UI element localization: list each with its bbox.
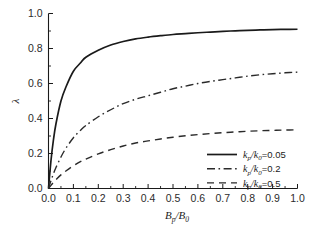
x-tick-label-4: 0.4 bbox=[141, 192, 156, 204]
y-axis-title: λ bbox=[9, 98, 21, 104]
x-tick-label-0: 0.0 bbox=[41, 192, 56, 204]
y-tick-label-5: 1.0 bbox=[28, 7, 43, 19]
y-tick-label-4: 0.8 bbox=[28, 42, 43, 54]
y-tick-label-1: 0.2 bbox=[28, 147, 43, 159]
y-tick-label-0: 0.0 bbox=[28, 182, 43, 194]
x-tick-label-3: 0.3 bbox=[116, 192, 131, 204]
x-tick-label-8: 0.8 bbox=[240, 192, 255, 204]
legend-value-1: =0.2 bbox=[262, 163, 281, 174]
x-tick-label-10: 1.0 bbox=[290, 192, 305, 204]
line-chart: 0.00.10.20.30.40.50.60.70.80.91.00.00.20… bbox=[0, 0, 315, 243]
y-tick-label-3: 0.6 bbox=[28, 77, 43, 89]
legend-value-0: =0.05 bbox=[262, 149, 286, 160]
legend-value-2: =0.5 bbox=[262, 178, 281, 189]
figure-container: 0.00.10.20.30.40.50.60.70.80.91.00.00.20… bbox=[0, 0, 315, 243]
y-tick-label-2: 0.4 bbox=[28, 112, 43, 124]
x-tick-label-6: 0.6 bbox=[191, 192, 206, 204]
x-tick-label-5: 0.5 bbox=[166, 192, 181, 204]
x-title-0-sub: 0 bbox=[185, 215, 189, 224]
x-tick-label-9: 0.9 bbox=[265, 192, 280, 204]
x-tick-label-2: 0.2 bbox=[91, 192, 106, 204]
x-tick-label-1: 0.1 bbox=[66, 192, 81, 204]
x-tick-label-7: 0.7 bbox=[215, 192, 230, 204]
